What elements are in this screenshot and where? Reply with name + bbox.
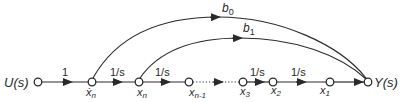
feedforward-arcs: [93, 17, 366, 79]
gain-label-1: 1: [62, 66, 68, 78]
gain-label-x2-x1: 1/s: [291, 66, 306, 78]
node-u: [34, 78, 42, 86]
signal-flow-graph: U(s) Y(s) 1 1/s 1/s 1/s 1/s b0 b1 ẋn xn…: [0, 0, 406, 102]
node-xn-dot: [88, 78, 96, 86]
branch-b0-arc: [93, 17, 366, 78]
node-label-xn-dot: ẋn: [85, 86, 97, 100]
node-x1: [326, 78, 334, 86]
node-label-x3: x3: [239, 85, 251, 99]
gain-label-b1: b1: [243, 21, 255, 37]
input-label: U(s): [4, 75, 29, 90]
gain-label-b0: b0: [222, 1, 234, 17]
node-label-xn: xn: [136, 86, 148, 100]
node-xn1: [185, 78, 193, 86]
node-label-x2: x2: [270, 84, 282, 98]
node-y: [364, 78, 372, 86]
node-label-xn1: xn-1: [188, 86, 206, 100]
gain-label-x3-x2: 1/s: [250, 66, 265, 78]
output-label: Y(s): [374, 75, 398, 90]
node-xn: [135, 78, 143, 86]
gain-label-xndot-xn: 1/s: [110, 66, 125, 78]
gain-label-xn-xn1: 1/s: [155, 66, 170, 78]
